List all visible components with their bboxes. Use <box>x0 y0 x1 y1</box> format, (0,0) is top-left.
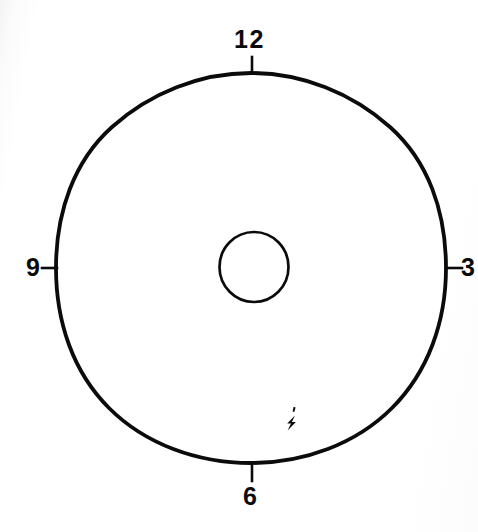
hour-label-3: 3 <box>461 255 475 280</box>
center-hub-circle <box>220 232 289 302</box>
dial-drawing <box>0 0 478 532</box>
watch-dial-figure: 12 3 6 9 <box>0 0 478 532</box>
hour-label-6: 6 <box>243 484 257 509</box>
lightning-bolt-tick <box>293 407 296 412</box>
hour-label-9: 9 <box>26 255 40 280</box>
hour-label-12: 12 <box>234 27 265 52</box>
lightning-bolt-body <box>287 415 296 430</box>
lightning-bolt-icon <box>283 406 301 434</box>
outer-bezel-circle <box>56 73 446 463</box>
